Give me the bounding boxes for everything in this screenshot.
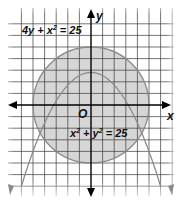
x-axis-label: x xyxy=(166,109,175,123)
coordinate-graph: x y O 4y + x2 = 25 x2 + y2 = 25 xyxy=(0,0,180,204)
parabola-equation-label: 4y + x2 = 25 xyxy=(21,24,82,36)
edge-fade xyxy=(0,0,14,204)
y-axis-label: y xyxy=(95,9,104,23)
edge-fade xyxy=(166,0,180,204)
origin-label: O xyxy=(78,107,88,121)
